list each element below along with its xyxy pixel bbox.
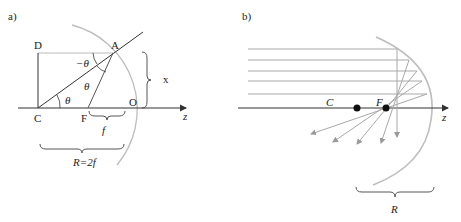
panel-b-label: b) bbox=[242, 10, 252, 23]
angle-theta-upper: θ bbox=[84, 80, 90, 92]
panel-b: b) C F z R bbox=[238, 10, 448, 215]
panel-a-label: a) bbox=[8, 10, 17, 23]
focal-point-dot bbox=[383, 105, 390, 112]
point-F: F bbox=[81, 112, 87, 124]
panel-a: a) D A C F O −θ θ θ x f z R=2f bbox=[8, 10, 188, 168]
brace-R bbox=[40, 144, 124, 153]
angle-arc-theta-lower bbox=[57, 95, 60, 108]
diagram-canvas: a) D A C F O −θ θ θ x f z R=2f b) bbox=[0, 0, 461, 222]
line-FA bbox=[88, 53, 113, 108]
point-O: O bbox=[129, 96, 137, 108]
x-label: x bbox=[163, 73, 169, 85]
point-A: A bbox=[111, 39, 119, 51]
mirror-arc bbox=[72, 25, 137, 165]
brace-R bbox=[356, 187, 434, 197]
center-point-dot bbox=[354, 105, 361, 112]
C-label: C bbox=[326, 96, 334, 108]
R-label: R=2f bbox=[72, 156, 98, 168]
f-label: f bbox=[102, 124, 107, 136]
angle-neg-theta: −θ bbox=[76, 57, 89, 69]
z-label: z bbox=[441, 111, 447, 123]
F-label: F bbox=[375, 96, 383, 108]
R-label: R bbox=[390, 203, 398, 215]
brace-x bbox=[142, 52, 151, 108]
point-D: D bbox=[34, 39, 42, 51]
mirror-arc bbox=[373, 37, 432, 185]
point-C: C bbox=[34, 112, 41, 124]
z-label: z bbox=[182, 110, 188, 122]
angle-theta-lower: θ bbox=[65, 94, 71, 106]
brace-f bbox=[89, 111, 125, 120]
angle-arc-neg-theta bbox=[93, 53, 97, 64]
